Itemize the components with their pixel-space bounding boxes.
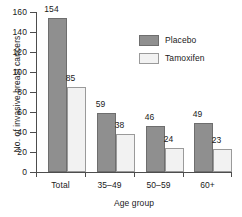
legend-item-placebo: Placebo [139, 33, 205, 47]
y-tick-label-140: 140 [1, 28, 27, 37]
x-tick-4 [231, 173, 232, 177]
x-tick-3 [183, 173, 184, 177]
y-tick-label-20: 20 [1, 148, 27, 157]
legend-swatch-tamoxifen-icon [139, 53, 159, 64]
x-tick-0 [36, 173, 37, 177]
value-label-placebo-total: 154 [38, 5, 65, 14]
bar-placebo-60plus [194, 123, 213, 172]
bar-tamoxifen-50-59 [165, 148, 184, 172]
value-label-tamoxifen-60plus: 23 [203, 136, 230, 145]
y-tick-label-0: 0 [1, 168, 27, 177]
x-tick-1 [85, 173, 86, 177]
legend-item-tamoxifen: Tamoxifen [139, 51, 205, 65]
x-tick-2 [134, 173, 135, 177]
legend-label-tamoxifen: Tamoxifen [165, 53, 205, 63]
x-group-label-50-59: 50–59 [134, 180, 183, 190]
y-tick-label-160: 160 [1, 8, 27, 17]
value-label-tamoxifen-total: 85 [57, 74, 84, 83]
value-label-tamoxifen-50-59: 24 [155, 135, 182, 144]
y-tick-label-60: 60 [1, 108, 27, 117]
bar-tamoxifen-35-49 [116, 134, 135, 172]
y-tick-label-120: 120 [1, 48, 27, 57]
value-label-placebo-50-59: 46 [136, 113, 163, 122]
y-tick-label-80: 80 [1, 88, 27, 97]
bar-tamoxifen-total [67, 87, 86, 172]
bar-chart: No. of invasive breast cancers 0 20 40 6… [0, 0, 242, 217]
x-axis-title: Age group [36, 198, 232, 208]
value-label-placebo-35-49: 59 [87, 100, 114, 109]
legend-swatch-placebo-icon [139, 35, 159, 46]
x-group-label-35-49: 35–49 [85, 180, 134, 190]
value-label-placebo-60plus: 49 [184, 110, 211, 119]
x-group-label-60plus: 60+ [183, 180, 232, 190]
y-tick-label-100: 100 [1, 68, 27, 77]
bar-tamoxifen-60plus [213, 149, 232, 172]
legend-label-placebo: Placebo [165, 35, 196, 45]
value-label-tamoxifen-35-49: 38 [106, 121, 133, 130]
bar-placebo-total [48, 18, 67, 172]
x-group-label-total: Total [36, 180, 85, 190]
bar-placebo-50-59 [146, 126, 165, 172]
chart-legend: Placebo Tamoxifen [139, 33, 205, 69]
y-tick-label-40: 40 [1, 128, 27, 137]
